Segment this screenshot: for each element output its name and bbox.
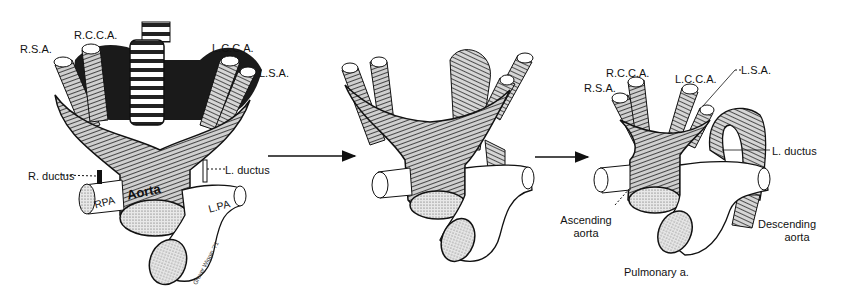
label-descending-aorta-line1: Descending xyxy=(752,218,822,230)
label-pulmonary-artery: Pulmonary a. xyxy=(624,266,689,278)
aortic-arch-figure: R.S.A. R.C.C.A. L.C.C.A. L.S.A. R. ductu… xyxy=(0,0,843,301)
label-l-c-c-a-3: L.C.C.A. xyxy=(675,73,717,85)
label-l-s-a-1: L.S.A. xyxy=(259,67,289,79)
label-r-c-c-a-3: R.C.C.A. xyxy=(606,67,649,79)
label-ascending-aorta-line2: aorta xyxy=(556,227,616,239)
label-ascending-aorta-line1: Ascending xyxy=(556,214,616,226)
label-r-c-c-a-1: R.C.C.A. xyxy=(74,29,117,41)
panel-2-drawing xyxy=(342,50,534,267)
label-l-ductus-3: L. ductus xyxy=(772,145,817,157)
label-r-ductus: R. ductus xyxy=(28,170,74,182)
figure-artwork xyxy=(0,0,843,301)
panel-1-drawing xyxy=(54,22,262,290)
panel-3-drawing xyxy=(594,70,770,259)
label-r-s-a-1: R.S.A. xyxy=(20,43,52,55)
label-l-ductus-1: L. ductus xyxy=(225,164,270,176)
label-descending-aorta-line2: aorta xyxy=(762,231,832,243)
label-r-s-a-3: R.S.A. xyxy=(584,82,616,94)
label-l-c-c-a-1: L.C.C.A. xyxy=(212,42,254,54)
label-l-s-a-3: L.S.A. xyxy=(741,64,771,76)
